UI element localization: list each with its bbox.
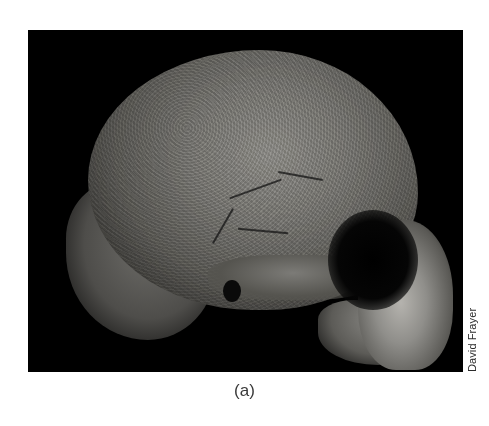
skull-ear-opening [223, 280, 241, 302]
photo-credit: David Frayer [466, 302, 478, 372]
skull-orbit [328, 210, 418, 310]
figure-caption: (a) [0, 381, 489, 401]
skull-photo [28, 30, 463, 372]
